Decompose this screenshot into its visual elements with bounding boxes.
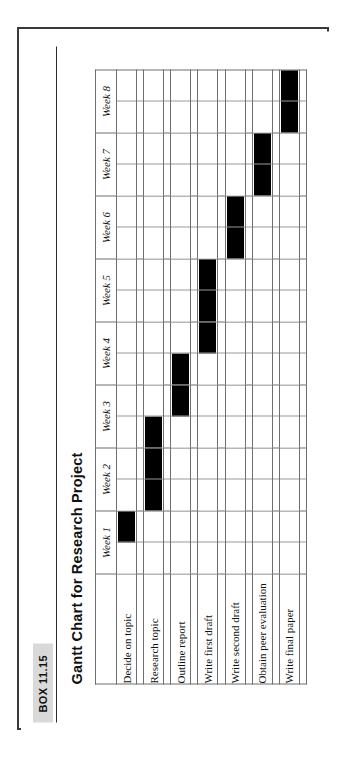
- gantt-cell: [279, 385, 299, 448]
- spacer-cell: [272, 448, 279, 511]
- gantt-cell: [171, 70, 191, 133]
- gantt-spacer-row: [191, 70, 198, 684]
- gantt-cell: [171, 259, 191, 322]
- gantt-cell: [225, 448, 245, 511]
- spacer-cell: [164, 511, 171, 574]
- spacer-cell: [137, 70, 144, 133]
- spacer-cell: [218, 70, 225, 133]
- gantt-bar: [227, 196, 244, 258]
- gantt-bar: [281, 70, 298, 132]
- gantt-cell: [198, 133, 218, 196]
- gantt-cell: [225, 322, 245, 385]
- gantt-cell: [198, 322, 218, 385]
- spacer-cell: [164, 448, 171, 511]
- spacer-cell: [137, 511, 144, 574]
- gantt-task-row: Write second draft: [225, 70, 245, 684]
- header-rule: [56, 46, 57, 722]
- gantt-bar: [254, 133, 271, 195]
- spacer-cell: [299, 322, 306, 385]
- rotated-content-wrapper: BOX 11.15 Gantt Chart for Research Proje…: [19, 29, 331, 732]
- spacer-cell: [137, 133, 144, 196]
- chart-title: Gantt Chart for Research Project: [69, 452, 85, 684]
- table-header-row: Week 1 Week 2 Week 3 Week 4 Week 5 Week …: [96, 70, 117, 684]
- gantt-task-row: Decide on topic: [117, 70, 137, 684]
- gantt-cell: [279, 196, 299, 259]
- gantt-cell: [198, 259, 218, 322]
- week-header-2: Week 2: [96, 448, 117, 511]
- gantt-bar: [199, 322, 216, 353]
- spacer-cell: [299, 70, 306, 133]
- gantt-cell: [144, 70, 164, 133]
- week-header-6: Week 6: [96, 196, 117, 259]
- spacer-cell: [191, 259, 198, 322]
- gantt-chart: Week 1 Week 2 Week 3 Week 4 Week 5 Week …: [95, 70, 307, 684]
- gantt-cell: [225, 511, 245, 574]
- gantt-cell: [252, 70, 272, 133]
- spacer-cell: [137, 196, 144, 259]
- gantt-cell: [117, 196, 137, 259]
- gantt-cell: [171, 322, 191, 385]
- spacer-cell: [218, 196, 225, 259]
- spacer-cell: [245, 385, 252, 448]
- spacer-cell: [218, 385, 225, 448]
- spacer-cell: [137, 259, 144, 322]
- gantt-task-row: Write first draft: [198, 70, 218, 684]
- spacer-cell: [137, 322, 144, 385]
- gantt-cell: [117, 385, 137, 448]
- spacer-cell: [245, 322, 252, 385]
- spacer-label-cell: [272, 574, 279, 684]
- gantt-cell: [252, 385, 272, 448]
- gantt-cell: [225, 70, 245, 133]
- gantt-cell: [279, 322, 299, 385]
- spacer-cell: [137, 448, 144, 511]
- corner-cell: [96, 574, 117, 684]
- gantt-cell: [279, 448, 299, 511]
- spacer-cell: [272, 385, 279, 448]
- gantt-bar: [172, 385, 189, 416]
- gantt-bar: [118, 511, 135, 542]
- gantt-cell: [252, 511, 272, 574]
- spacer-cell: [191, 448, 198, 511]
- gantt-cell: [117, 322, 137, 385]
- spacer-cell: [164, 322, 171, 385]
- spacer-cell: [272, 259, 279, 322]
- figure-page: BOX 11.15 Gantt Chart for Research Proje…: [0, 0, 347, 759]
- spacer-cell: [272, 133, 279, 196]
- gantt-cell: [198, 448, 218, 511]
- spacer-cell: [299, 511, 306, 574]
- week-header-5: Week 5: [96, 259, 117, 322]
- gantt-spacer-row: [164, 70, 171, 684]
- spacer-cell: [164, 385, 171, 448]
- gantt-cell: [171, 385, 191, 448]
- gantt-cell: [225, 259, 245, 322]
- task-label: Write second draft: [225, 574, 245, 684]
- gantt-cell: [225, 133, 245, 196]
- gantt-cell: [279, 70, 299, 133]
- gantt-cell: [252, 259, 272, 322]
- spacer-cell: [218, 259, 225, 322]
- box-number-tag: BOX 11.15: [33, 643, 53, 722]
- gantt-body: Decide on topicResearch topicOutline rep…: [117, 70, 307, 684]
- gantt-spacer-row: [218, 70, 225, 684]
- spacer-cell: [245, 259, 252, 322]
- spacer-cell: [191, 385, 198, 448]
- spacer-label-cell: [218, 574, 225, 684]
- gantt-cell: [252, 322, 272, 385]
- spacer-cell: [191, 511, 198, 574]
- spacer-cell: [245, 196, 252, 259]
- gantt-cell: [144, 259, 164, 322]
- figure-frame: BOX 11.15 Gantt Chart for Research Proje…: [17, 27, 329, 730]
- gantt-spacer-row: [299, 70, 306, 684]
- gantt-spacer-row: [137, 70, 144, 684]
- gantt-cell: [198, 70, 218, 133]
- gantt-task-row: Research topic: [144, 70, 164, 684]
- spacer-cell: [272, 196, 279, 259]
- gantt-cell: [252, 448, 272, 511]
- spacer-cell: [218, 133, 225, 196]
- spacer-cell: [245, 70, 252, 133]
- spacer-label-cell: [191, 574, 198, 684]
- gantt-task-row: Write final paper: [279, 70, 299, 684]
- gantt-cell: [198, 511, 218, 574]
- task-label: Outline report: [171, 574, 191, 684]
- gantt-spacer-row: [245, 70, 252, 684]
